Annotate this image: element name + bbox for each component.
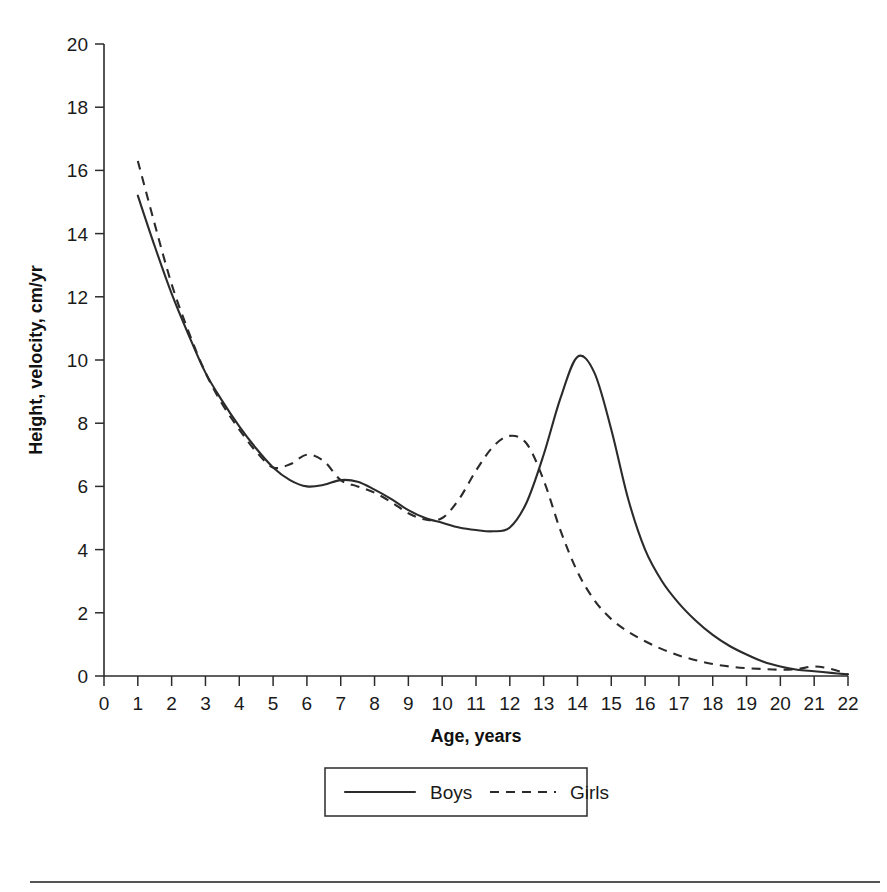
- x-tick-label: 2: [166, 693, 177, 714]
- x-tick-label: 14: [567, 693, 589, 714]
- y-tick-label: 0: [77, 666, 88, 687]
- y-tick-label: 20: [67, 34, 88, 55]
- x-tick-label: 3: [200, 693, 211, 714]
- x-tick-label: 15: [601, 693, 622, 714]
- x-tick-label: 21: [804, 693, 825, 714]
- y-tick-label: 14: [67, 224, 89, 245]
- x-tick-label: 8: [369, 693, 380, 714]
- y-tick-label: 16: [67, 160, 88, 181]
- x-tick-label: 11: [466, 693, 486, 714]
- legend-label-boys: Boys: [430, 782, 472, 803]
- x-tick-label: 20: [770, 693, 791, 714]
- x-tick-label: 18: [702, 693, 723, 714]
- y-axis-title: Height, velocity, cm/yr: [26, 265, 46, 455]
- x-tick-label: 4: [234, 693, 245, 714]
- x-tick-label: 22: [837, 693, 858, 714]
- x-tick-label: 5: [268, 693, 279, 714]
- x-tick-label: 9: [403, 693, 414, 714]
- series-group: [138, 161, 848, 675]
- y-tick-label: 18: [67, 97, 88, 118]
- y-tick-label: 6: [77, 476, 88, 497]
- legend: Boys Girls: [325, 768, 609, 816]
- x-axis-title: Age, years: [430, 726, 521, 746]
- axes-group: [104, 44, 848, 676]
- x-tick-label: 1: [133, 693, 144, 714]
- x-tick-label: 12: [499, 693, 520, 714]
- x-tick-label: 0: [99, 693, 110, 714]
- x-tick-label: 19: [736, 693, 757, 714]
- y-tick-label: 10: [67, 350, 88, 371]
- x-tick-label: 10: [432, 693, 453, 714]
- x-tick-label: 13: [533, 693, 554, 714]
- x-axis-ticks: 012345678910111213141516171819202122: [99, 676, 859, 714]
- figure-container: 02468101214161820 0123456789101112131415…: [0, 0, 887, 892]
- legend-label-girls: Girls: [570, 782, 609, 803]
- x-tick-label: 16: [635, 693, 656, 714]
- y-tick-label: 12: [67, 287, 88, 308]
- series-line-girls: [138, 161, 848, 675]
- y-tick-label: 4: [77, 540, 88, 561]
- growth-velocity-chart: 02468101214161820 0123456789101112131415…: [0, 0, 887, 892]
- y-tick-label: 8: [77, 413, 88, 434]
- x-tick-label: 6: [302, 693, 313, 714]
- x-tick-label: 7: [335, 693, 346, 714]
- x-tick-label: 17: [668, 693, 689, 714]
- y-tick-label: 2: [77, 603, 88, 624]
- y-axis-ticks: 02468101214161820: [67, 34, 104, 687]
